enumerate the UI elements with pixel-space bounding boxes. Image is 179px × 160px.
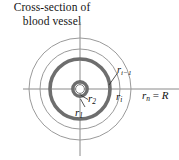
- label-r-i-minus-1: ri−1: [117, 65, 131, 77]
- label-r1: r1: [75, 107, 83, 120]
- inner-core-circle: [76, 85, 85, 94]
- label-r2: r2: [88, 93, 96, 106]
- cross-section-diagram: [0, 0, 179, 160]
- label-r2-subscript: 2: [92, 97, 96, 106]
- label-r-i: ri: [116, 91, 122, 104]
- label-r-i-subscript: i: [120, 95, 122, 104]
- label-R-value: R: [162, 89, 169, 101]
- label-r-i-minus-1-subscript: i−1: [121, 69, 131, 77]
- label-r1-subscript: 1: [79, 111, 83, 120]
- label-r-n-equals-R: rn = R: [142, 90, 168, 103]
- blood-vessel-cross-section-figure: Cross-section of blood vessel r1 r2 ri−1…: [0, 0, 179, 160]
- equals-sign: =: [150, 89, 162, 101]
- leader-line-r1: [81, 99, 86, 107]
